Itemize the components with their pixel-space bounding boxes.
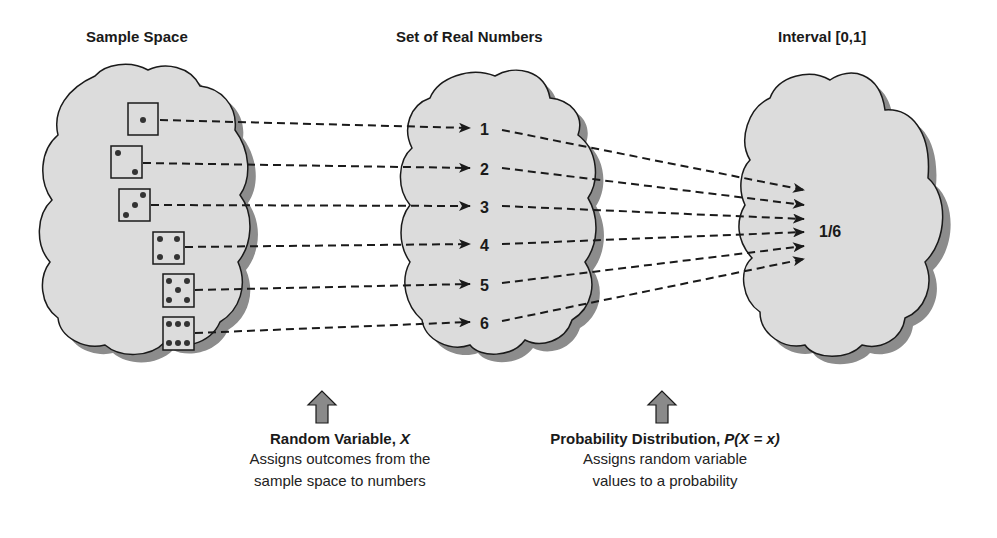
- die-face-2: [111, 146, 142, 178]
- probability-distribution-heading: Probability Distribution, P(X = x): [500, 430, 830, 447]
- probability-distribution-caption: Probability Distribution, P(X = x) Assig…: [500, 430, 830, 491]
- die-face-6: [163, 317, 194, 350]
- probability-distribution-description-line2: values to a probability: [500, 471, 830, 491]
- real-numbers-cloud: [400, 70, 604, 362]
- interval-cloud: [739, 73, 951, 364]
- die-face-1: [128, 103, 158, 135]
- random-variable-caption: Random Variable, X Assigns outcomes from…: [200, 430, 480, 491]
- value-label-2: 2: [480, 161, 489, 178]
- die-face-3: [119, 189, 150, 221]
- value-label-3: 3: [480, 199, 489, 216]
- probability-distribution-up-arrow-icon: [648, 391, 676, 423]
- value-label-5: 5: [480, 277, 489, 294]
- value-label-1: 1: [480, 121, 489, 138]
- probability-value-label: 1/6: [819, 223, 841, 240]
- random-variable-up-arrow-icon: [308, 391, 336, 423]
- die-face-5: [163, 274, 194, 307]
- random-variable-heading: Random Variable, X: [200, 430, 480, 447]
- die-face-4: [153, 232, 184, 264]
- diagram-canvas: 1 2 3 4 5 6 1/6: [0, 0, 997, 538]
- probability-distribution-description-line1: Assigns random variable: [500, 449, 830, 469]
- value-label-6: 6: [480, 315, 489, 332]
- random-variable-description-line1: Assigns outcomes from the: [200, 449, 480, 469]
- value-label-4: 4: [480, 237, 489, 254]
- random-variable-description-line2: sample space to numbers: [200, 471, 480, 491]
